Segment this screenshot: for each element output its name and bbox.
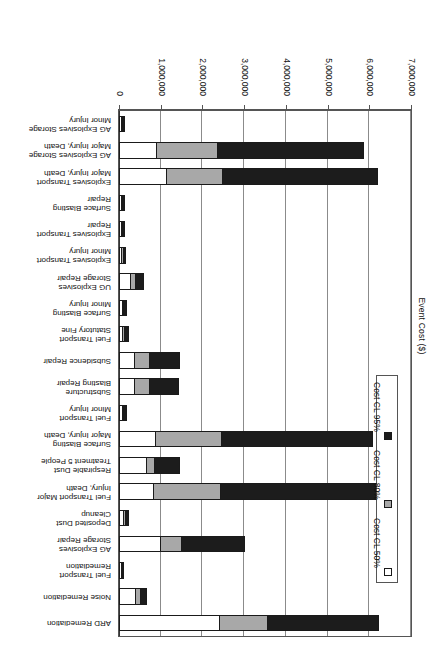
bar-segment-cost-cl-50 <box>119 589 136 605</box>
bar-segment-cost-cl-50 <box>119 379 135 395</box>
bar-segment-cost-cl-50 <box>119 615 220 631</box>
legend-entry: Cost CL 50% <box>375 514 397 580</box>
bar-row <box>119 589 411 605</box>
bar-row <box>119 142 411 158</box>
bar-segment-cost-cl-50 <box>119 484 154 500</box>
bar-segment-cost-cl-50 <box>119 274 131 290</box>
category-label: Explosives Transport Minor Injury <box>0 247 115 265</box>
bar-row <box>119 274 411 290</box>
bar-segment-cost-cl-50 <box>119 562 122 578</box>
bar-segment-cost-cl-50 <box>119 405 123 421</box>
legend-label: Cost CL 50% <box>372 518 382 568</box>
tick-label: 4,000,000 <box>282 36 292 96</box>
tick-mark <box>119 105 120 109</box>
category-label: Deposited Dust Cleanup <box>0 510 115 528</box>
category-label: ARD Remediation <box>0 619 115 628</box>
bar-row <box>119 247 411 263</box>
tick-label: 3,000,000 <box>240 36 250 96</box>
bar-segment-cost-cl-50 <box>119 169 167 185</box>
tick-mark <box>286 105 287 109</box>
category-label: Explosives Transport Repair <box>0 221 115 239</box>
category-label: Explosives Transport Major Injury, Death <box>0 169 115 187</box>
bar-row <box>119 484 411 500</box>
category-label: Surface Blasting Minor Injury <box>0 300 115 318</box>
category-label: Surface Blasting Repair <box>0 195 115 213</box>
tick-mark <box>411 105 412 109</box>
category-label: AG Explosives Storage Minor Injury <box>0 116 115 134</box>
legend-swatch <box>385 432 393 440</box>
tick-mark <box>244 105 245 109</box>
legend-entry: Cost CL 95% <box>375 378 397 444</box>
bar-segment-cost-cl-50 <box>119 221 122 237</box>
tick-label: 5,000,000 <box>324 36 334 96</box>
bar-segment-cost-cl-50 <box>119 457 147 473</box>
legend-label: Cost CL 95% <box>372 382 382 432</box>
bar-segment-cost-cl-50 <box>119 142 157 158</box>
bar-row <box>119 379 411 395</box>
tick-label: 7,000,000 <box>407 36 417 96</box>
plot-area <box>118 110 412 637</box>
legend-swatch <box>385 500 393 508</box>
bar-segment-cost-cl-50 <box>119 247 122 263</box>
bar-row <box>119 116 411 132</box>
bar-row <box>119 352 411 368</box>
bar-row <box>119 221 411 237</box>
category-label: Surface Blasting Major Injury, Death <box>0 431 115 449</box>
bar-segment-cost-cl-50 <box>119 326 123 342</box>
category-label: UG Explosives Storage Repair <box>0 274 115 292</box>
bar-row <box>119 169 411 185</box>
bar-row <box>119 562 411 578</box>
bar-row <box>119 300 411 316</box>
tick-label: 6,000,000 <box>365 36 375 96</box>
category-label: AG Explosives Storage Major Injury, Deat… <box>0 142 115 160</box>
legend-entry: Cost CL 80% <box>375 446 397 512</box>
tick-label: 1,000,000 <box>157 36 167 96</box>
bar-row <box>119 510 411 526</box>
category-label: AG Explosives Storage Repair <box>0 536 115 554</box>
bar-row <box>119 431 411 447</box>
tick-mark <box>161 105 162 109</box>
category-label: Substructure Blasting Repair <box>0 379 115 397</box>
axis-title: Event Cost ($) <box>417 297 427 354</box>
bar-segment-cost-cl-50 <box>119 510 124 526</box>
category-label: Fuel Transport Major Injury, Death <box>0 484 115 502</box>
bar-segment-cost-cl-50 <box>119 536 161 552</box>
legend-swatch <box>385 568 393 576</box>
category-label: Noise Remediation <box>0 593 115 602</box>
category-label: Fuel Transport Remediation <box>0 562 115 580</box>
bar-row <box>119 457 411 473</box>
bar-segment-cost-cl-50 <box>119 352 135 368</box>
bar-row <box>119 615 411 631</box>
bar-segment-cost-cl-50 <box>119 431 156 447</box>
bar-row <box>119 326 411 342</box>
tick-mark <box>202 105 203 109</box>
tick-mark <box>328 105 329 109</box>
bar-segment-cost-cl-50 <box>119 116 122 132</box>
category-label: Subsidence Repair <box>0 357 115 366</box>
legend: Cost CL 50%Cost CL 80%Cost CL 95% <box>376 375 398 583</box>
category-label: Respirable Dust Treatment 5 People <box>0 457 115 475</box>
bars-container <box>119 111 411 636</box>
legend-label: Cost CL 80% <box>372 450 382 500</box>
bar-segment-cost-cl-50 <box>119 300 123 316</box>
category-label: Fuel Transport Minor Injury <box>0 405 115 423</box>
bar-row <box>119 195 411 211</box>
tick-label: 0 <box>115 36 125 96</box>
category-label: Fuel Transport Statutory Fine <box>0 326 115 344</box>
tick-mark <box>369 105 370 109</box>
tick-label: 2,000,000 <box>198 36 208 96</box>
bar-row <box>119 405 411 421</box>
bar-row <box>119 536 411 552</box>
stacked-bar-chart-figure: Event Cost ($) 01,000,0002,000,0003,000,… <box>0 0 435 651</box>
category-axis-labels: ARD RemediationNoise RemediationFuel Tra… <box>2 110 115 637</box>
bar-segment-cost-cl-50 <box>119 195 122 211</box>
